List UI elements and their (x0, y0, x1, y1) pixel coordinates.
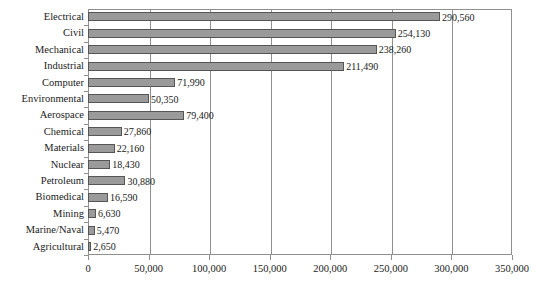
category-label: Civil (0, 25, 84, 41)
bar (88, 45, 377, 54)
x-axis-tick-label: 150,000 (253, 262, 287, 276)
bar (88, 176, 125, 185)
category-label: Aerospace (0, 107, 84, 123)
bar-value-label: 50,350 (151, 92, 179, 107)
bar-row: 254,130 (88, 25, 512, 41)
bar-value-label: 238,260 (379, 42, 412, 57)
bar-value-label: 254,130 (398, 26, 431, 41)
x-axis-tick-label: 250,000 (374, 262, 408, 276)
bar (88, 226, 95, 235)
bar-value-label: 71,990 (177, 75, 205, 90)
bar-row: 30,880 (88, 173, 512, 189)
bar-row: 238,260 (88, 42, 512, 58)
category-label: Computer (0, 75, 84, 91)
x-axis-tick (451, 255, 452, 260)
bar (88, 127, 122, 136)
x-axis-tick-label: 100,000 (192, 262, 226, 276)
category-label: Nuclear (0, 157, 84, 173)
x-axis-tick-label: 50,000 (134, 262, 163, 276)
bar-value-label: 18,430 (112, 157, 140, 172)
x-axis-tick (88, 255, 89, 260)
bar-value-label: 30,880 (127, 174, 155, 189)
bar-value-label: 79,400 (186, 108, 214, 123)
bar-value-label: 2,650 (93, 239, 116, 254)
bar-row: 5,470 (88, 222, 512, 238)
bar-value-label: 290,560 (442, 10, 475, 25)
bar-row: 16,590 (88, 189, 512, 205)
bar (88, 94, 149, 103)
category-label: Industrial (0, 58, 84, 74)
bar-row: 71,990 (88, 75, 512, 91)
category-label: Materials (0, 140, 84, 156)
category-label: Mining (0, 206, 84, 222)
category-label: Electrical (0, 9, 84, 25)
category-label: Agricultural (0, 239, 84, 255)
x-axis-tick-label: 350,000 (495, 262, 529, 276)
category-label: Mechanical (0, 42, 84, 58)
bar (88, 144, 115, 153)
bar (88, 78, 175, 87)
x-axis-tick (149, 255, 150, 260)
bar (88, 12, 440, 21)
bar (88, 29, 396, 38)
category-label: Chemical (0, 124, 84, 140)
x-axis-tick-label: 200,000 (313, 262, 347, 276)
bar-chart: ElectricalCivilMechanicalIndustrialCompu… (0, 0, 540, 288)
x-axis-tick-label: 0 (85, 262, 90, 276)
bar-value-label: 27,860 (124, 124, 152, 139)
x-axis-tick (270, 255, 271, 260)
bar-row: 50,350 (88, 91, 512, 107)
x-axis-tick-label: 300,000 (434, 262, 468, 276)
category-label: Environmental (0, 91, 84, 107)
bar-row: 6,630 (88, 206, 512, 222)
bar (88, 160, 110, 169)
x-axis-tick (391, 255, 392, 260)
bar-row: 27,860 (88, 124, 512, 140)
bar-row: 211,490 (88, 58, 512, 74)
bar-value-label: 22,160 (117, 141, 145, 156)
bar (88, 62, 344, 71)
bar (88, 111, 184, 120)
bar-value-label: 5,470 (97, 223, 120, 238)
bar-row: 79,400 (88, 107, 512, 123)
bar (88, 242, 91, 251)
x-axis-tick (209, 255, 210, 260)
bar (88, 193, 108, 202)
bar-value-label: 6,630 (98, 206, 121, 221)
bar-row: 290,560 (88, 9, 512, 25)
bar-row: 18,430 (88, 157, 512, 173)
category-axis: ElectricalCivilMechanicalIndustrialCompu… (0, 9, 84, 255)
category-label: Biomedical (0, 189, 84, 205)
bar-row: 22,160 (88, 140, 512, 156)
bar-value-label: 211,490 (346, 59, 378, 74)
bar (88, 209, 96, 218)
x-axis-tick (512, 255, 513, 260)
bars-layer: 290,560254,130238,260211,49071,99050,350… (88, 9, 512, 255)
x-axis-tick (330, 255, 331, 260)
bar-value-label: 16,590 (110, 190, 138, 205)
category-label: Petroleum (0, 173, 84, 189)
category-label: Marine/Naval (0, 222, 84, 238)
bar-row: 2,650 (88, 239, 512, 255)
